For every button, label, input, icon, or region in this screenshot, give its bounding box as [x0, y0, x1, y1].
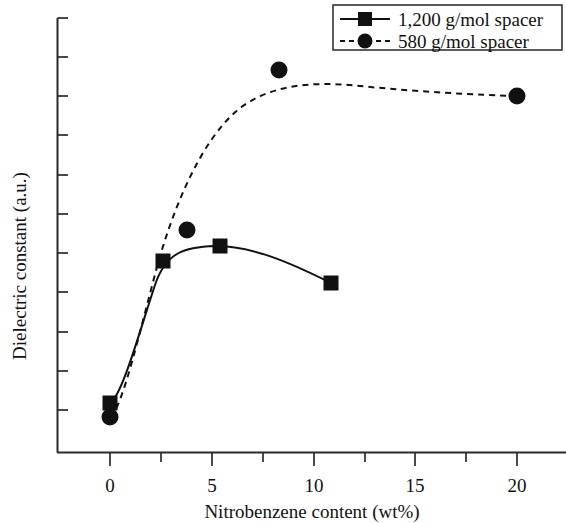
legend-label-580: 580 g/mol spacer	[398, 31, 530, 52]
legend-marker-circle	[358, 34, 373, 49]
chart-figure: 0 5 10 15 20 Nitrobenzene content (wt%) …	[0, 0, 566, 523]
x-tick-label-20: 20	[508, 475, 527, 496]
chart-legend: 1,200 g/mol spacer 580 g/mol spacer	[333, 5, 562, 52]
dielectric-constant-line-chart: 0 5 10 15 20 Nitrobenzene content (wt%) …	[0, 0, 566, 523]
x-tick-label-10: 10	[305, 475, 324, 496]
data-point-circle	[509, 88, 526, 105]
y-axis-title: Dielectric constant (a.u.)	[9, 172, 31, 360]
x-tick-label-15: 15	[406, 475, 425, 496]
data-point-circle	[271, 62, 288, 79]
legend-marker-square	[358, 12, 372, 26]
data-point-circle	[102, 409, 119, 426]
legend-label-1200: 1,200 g/mol spacer	[398, 9, 544, 30]
data-point-square	[324, 276, 339, 291]
data-point-square	[156, 254, 171, 269]
data-point-square	[103, 396, 118, 411]
x-tick-label-0: 0	[105, 475, 115, 496]
x-axis-title: Nitrobenzene content (wt%)	[204, 501, 419, 523]
x-tick-label-5: 5	[207, 475, 217, 496]
data-point-circle	[179, 222, 196, 239]
data-point-square	[213, 239, 228, 254]
